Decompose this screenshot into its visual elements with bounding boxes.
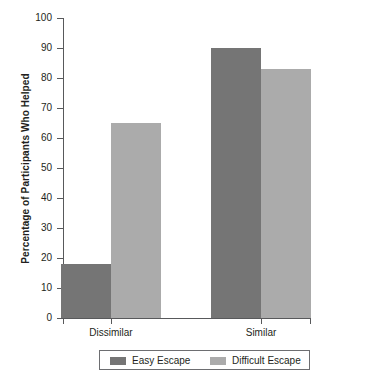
- y-axis-tick-label: 0: [12, 313, 52, 323]
- y-axis-tick: [57, 228, 63, 229]
- y-axis-tick: [57, 78, 63, 79]
- x-axis-tick: [63, 319, 64, 324]
- legend-swatch-icon: [210, 357, 226, 365]
- legend-swatch-icon: [110, 357, 126, 365]
- legend-item: Difficult Escape: [210, 354, 301, 367]
- y-axis-tick-label: 50: [12, 163, 52, 173]
- legend-item: Easy Escape: [110, 354, 190, 367]
- bar: [261, 69, 311, 318]
- y-axis-tick-label: 70: [12, 103, 52, 113]
- x-axis-tick: [111, 319, 112, 324]
- bar: [111, 123, 161, 318]
- y-axis-tick-label: 40: [12, 193, 52, 203]
- y-axis-tick-label: 20: [12, 253, 52, 263]
- y-axis-tick: [57, 18, 63, 19]
- x-axis-tick: [310, 319, 311, 324]
- y-axis-tick-label: 60: [12, 133, 52, 143]
- legend-label: Easy Escape: [132, 355, 190, 366]
- x-axis-category-label: Similar: [201, 327, 321, 338]
- y-axis-tick: [57, 48, 63, 49]
- y-axis-tick: [57, 198, 63, 199]
- y-axis-tick-label: 10: [12, 283, 52, 293]
- y-axis-tick: [57, 168, 63, 169]
- y-axis-tick-label: 30: [12, 223, 52, 233]
- legend: Easy EscapeDifficult Escape: [99, 350, 310, 370]
- bar: [211, 48, 261, 318]
- y-axis-tick: [57, 108, 63, 109]
- y-axis-tick: [57, 258, 63, 259]
- y-axis-tick: [57, 138, 63, 139]
- x-axis-line: [63, 318, 311, 319]
- x-axis-tick: [261, 319, 262, 324]
- bar-chart: Percentage of Participants Who Helped 10…: [0, 0, 368, 382]
- legend-label: Difficult Escape: [232, 355, 301, 366]
- y-axis-tick-label: 100: [12, 13, 52, 23]
- y-axis-tick-label: 90: [12, 43, 52, 53]
- y-axis-tick-label: 80: [12, 73, 52, 83]
- x-axis-category-label: Dissimilar: [51, 327, 171, 338]
- bar: [61, 264, 111, 318]
